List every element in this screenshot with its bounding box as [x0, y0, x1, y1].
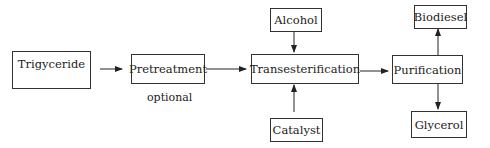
- node-alcohol-label: Alcohol: [274, 13, 317, 27]
- node-purification: Purification: [392, 55, 463, 84]
- node-pretreatment-label: Pretreatment: [129, 62, 207, 76]
- annotation-optional: optional: [147, 91, 192, 104]
- node-transesterification-label: Transesterification: [250, 62, 360, 76]
- node-glycerol: Glycerol: [411, 111, 467, 138]
- node-catalyst-label: Catalyst: [273, 123, 321, 137]
- node-trigyceride: Trigyceride: [12, 51, 91, 89]
- node-biodiesel: Biodiesel: [414, 5, 467, 29]
- node-pretreatment: Pretreatment: [131, 54, 205, 84]
- node-catalyst: Catalyst: [270, 118, 323, 142]
- node-transesterification: Transesterification: [251, 54, 359, 84]
- node-alcohol: Alcohol: [270, 8, 322, 32]
- node-biodiesel-label: Biodiesel: [414, 10, 467, 24]
- node-purification-label: Purification: [394, 63, 462, 77]
- node-trigyceride-label: Trigyceride: [18, 57, 85, 71]
- node-glycerol-label: Glycerol: [415, 118, 464, 132]
